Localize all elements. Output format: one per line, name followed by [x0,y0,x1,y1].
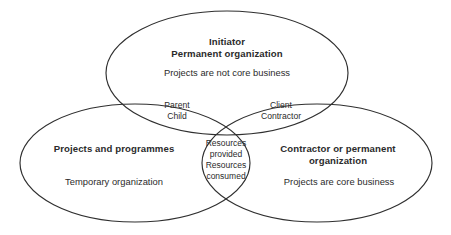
set-label-bottom-right-subtitle: Projects are core business [258,176,420,187]
set-label-bottom-left-title: Projects and programmes [30,143,198,155]
intersection-label-center: Resources provided Resources consumed [191,138,261,182]
intersection-label-top-right: Client Contractor [236,100,326,122]
set-label-bottom-left-subtitle: Temporary organization [32,176,196,187]
set-label-top-title: Initiator Permanent organization [132,36,322,59]
set-label-bottom-right-title: Contractor or permanent organization [262,143,414,166]
intersection-label-top-left: Parent Child [135,100,219,122]
venn-diagram: Initiator Permanent organization Project… [0,0,451,235]
set-label-top-subtitle: Projects are not core business [127,67,327,78]
